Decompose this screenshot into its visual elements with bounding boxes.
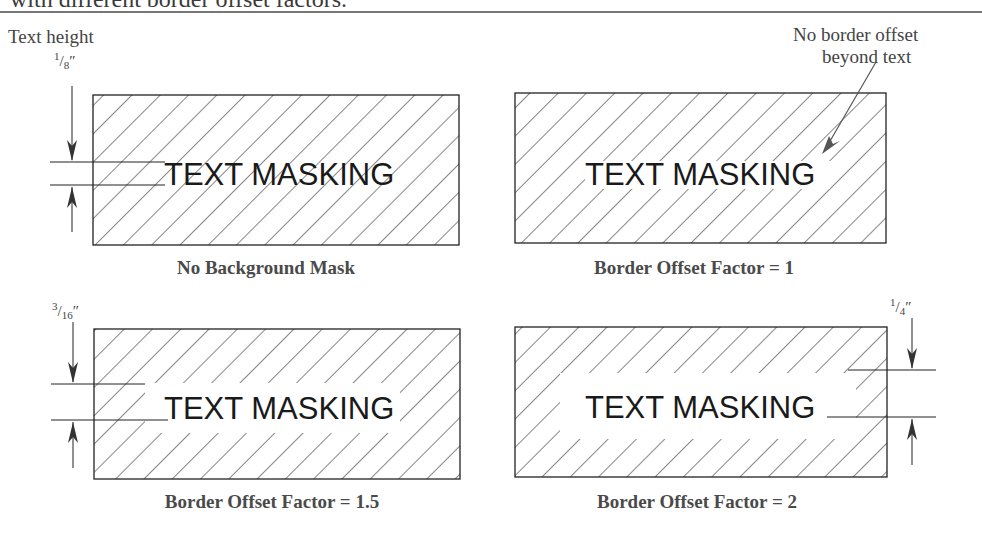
panel-border-offset-1-5: TEXT MASKING [51,322,460,479]
masking-diagram: TEXT MASKING TEXT MASKING TEXT MASKING [0,0,982,537]
panel-border-offset-1: TEXT MASKING [515,62,886,243]
panel-border-offset-2: TEXT MASKING [515,318,936,477]
mask-text-3: TEXT MASKING [164,391,394,426]
mask-text-2: TEXT MASKING [585,157,815,192]
mask-text-1: TEXT MASKING [164,157,394,192]
mask-text-4: TEXT MASKING [585,390,815,425]
panel-no-background-mask: TEXT MASKING [50,86,459,245]
